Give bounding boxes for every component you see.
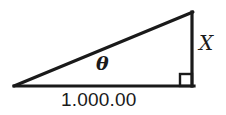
base-length-label: 1.000.00 [61, 90, 137, 109]
opposite-side-label: X [199, 33, 213, 53]
hypotenuse-line [14, 12, 193, 86]
right-angle-marker-icon [180, 74, 192, 86]
angle-theta-label: θ [96, 54, 109, 73]
triangle-diagram-figure: θ X 1.000.00 [0, 0, 226, 115]
